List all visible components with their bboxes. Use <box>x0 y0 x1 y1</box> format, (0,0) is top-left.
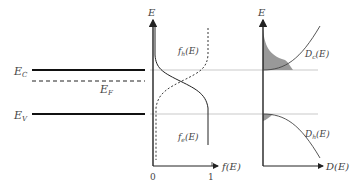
electron-filled-region <box>263 30 293 70</box>
ef-label: EF <box>99 83 114 97</box>
semiconductor-band-diagram: EC EF EV 0 1 f(E) E fh(E) fe(E) E D(E) D… <box>0 0 364 190</box>
dos-plot: E D(E) Dc(E) Dh(E) <box>257 7 349 172</box>
fh-label: fh(E) <box>177 46 199 57</box>
dh-label: Dh(E) <box>304 129 330 140</box>
dos-x-axis-label: D(E) <box>325 161 349 172</box>
occupation-plot: 0 1 f(E) E fh(E) fe(E) <box>147 7 241 182</box>
ec-label: EC <box>13 65 28 79</box>
electron-occupation-curve <box>155 25 208 145</box>
f-x-axis-label: f(E) <box>221 161 241 172</box>
band-levels: EC EF EV <box>13 65 145 123</box>
ev-label: EV <box>13 109 28 123</box>
tick-1-label: 1 <box>208 172 214 182</box>
dos-y-axis-label: E <box>257 7 266 18</box>
fe-label: fe(E) <box>177 132 199 143</box>
tick-0-label: 0 <box>150 172 156 182</box>
dc-label: Dc(E) <box>304 49 330 60</box>
f-y-axis-label: E <box>147 7 156 18</box>
